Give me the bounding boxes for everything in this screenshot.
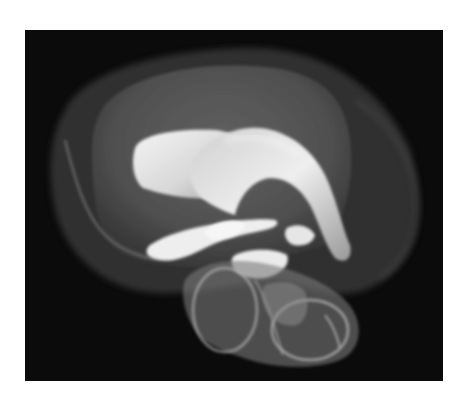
ventricle-rendering: [25, 30, 443, 381]
render-viewport: [25, 30, 443, 381]
